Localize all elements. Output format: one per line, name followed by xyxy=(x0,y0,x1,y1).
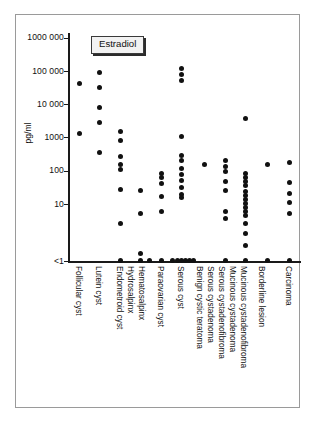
data-point xyxy=(77,81,82,86)
data-point xyxy=(179,134,184,139)
y-tick-label: 10 xyxy=(54,199,64,209)
chart-title-box: Estradiol xyxy=(91,36,144,54)
y-tick-mark xyxy=(64,71,68,72)
y-tick-mark xyxy=(64,137,68,138)
data-point xyxy=(223,164,228,169)
data-point xyxy=(179,166,184,171)
data-point xyxy=(118,167,123,172)
data-point xyxy=(138,211,143,216)
data-point xyxy=(77,131,82,136)
y-tick-label: 1000 xyxy=(44,132,64,142)
data-point xyxy=(97,150,102,155)
data-point xyxy=(223,179,228,184)
data-point xyxy=(243,231,248,236)
data-point xyxy=(97,105,102,110)
data-point xyxy=(243,183,248,188)
data-point xyxy=(243,221,248,226)
data-point xyxy=(97,85,102,90)
data-point xyxy=(202,162,207,167)
data-point xyxy=(287,258,292,263)
data-point xyxy=(191,258,196,263)
data-point xyxy=(138,188,143,193)
data-point xyxy=(179,185,184,190)
data-point xyxy=(265,258,270,263)
x-tick-label: Follicular cyst xyxy=(74,266,83,316)
data-point xyxy=(243,243,248,248)
x-tick-label: Borderline lesion xyxy=(257,266,266,327)
y-tick-mark xyxy=(64,171,68,172)
y-tick-mark xyxy=(64,204,68,205)
data-point xyxy=(223,258,228,263)
data-point xyxy=(179,172,184,177)
data-point xyxy=(97,120,102,125)
data-point xyxy=(170,258,175,263)
x-tick-label: Lutein cyst xyxy=(94,266,103,305)
data-point xyxy=(118,187,123,192)
y-axis-label: pg/ml xyxy=(23,103,33,163)
data-point xyxy=(287,160,292,165)
data-point xyxy=(147,258,152,263)
data-point xyxy=(223,188,228,193)
data-point xyxy=(179,178,184,183)
y-tick-label: <1 xyxy=(54,256,64,266)
data-point xyxy=(179,72,184,77)
data-point xyxy=(118,154,123,159)
x-tick-label: Mucinous cystadenofibroma xyxy=(239,266,248,368)
data-point xyxy=(138,251,143,256)
x-tick-label: Endometroid cyst xyxy=(115,266,124,329)
data-point xyxy=(223,209,228,214)
data-point xyxy=(159,181,164,186)
data-point xyxy=(243,213,248,218)
y-tick-mark xyxy=(64,38,68,39)
y-tick-label: 100 xyxy=(49,165,64,175)
data-point xyxy=(118,162,123,167)
data-point xyxy=(265,162,270,167)
figure-estradiol-scatter-plot: 1000 000100 00010 000100010010<1 Follicu… xyxy=(0,0,315,424)
data-point xyxy=(223,169,228,174)
data-point xyxy=(223,216,228,221)
data-point xyxy=(138,258,143,263)
y-tick-label: 1000 000 xyxy=(27,32,64,42)
plot-area: 1000 000100 00010 000100010010<1 Follicu… xyxy=(0,0,315,424)
y-tick-mark xyxy=(64,104,68,105)
y-tick-mark xyxy=(64,261,68,262)
data-point xyxy=(97,70,102,75)
data-point xyxy=(118,129,123,134)
data-point xyxy=(287,200,292,205)
data-point xyxy=(118,138,123,143)
x-tick-label: Serous cystadenoma xyxy=(206,266,215,343)
y-tick-label: 10 000 xyxy=(37,99,64,109)
x-tick-label: Serous cystadenofibroma xyxy=(217,266,226,359)
data-point xyxy=(118,221,123,226)
data-point xyxy=(179,66,184,71)
data-point xyxy=(159,175,164,180)
data-point xyxy=(179,195,184,200)
data-point xyxy=(287,211,292,216)
x-tick-label: Mucinous cystadenoma xyxy=(228,266,237,352)
x-tick-label: Serous cyst xyxy=(176,266,185,309)
data-point xyxy=(243,116,248,121)
data-point xyxy=(159,258,164,263)
y-axis-line xyxy=(68,33,70,262)
data-point xyxy=(179,158,184,163)
y-tick-label: 100 000 xyxy=(32,66,64,76)
data-point xyxy=(179,78,184,83)
data-point xyxy=(243,258,248,263)
data-point xyxy=(287,191,292,196)
x-tick-label: Hematosalpinx xyxy=(137,266,146,320)
x-tick-label: Hydrosalpinx xyxy=(126,266,135,313)
data-point xyxy=(159,194,164,199)
x-tick-label: Carcinoma xyxy=(284,266,293,306)
data-point xyxy=(179,153,184,158)
x-tick-label: Benign cystic teratoma xyxy=(195,266,204,349)
data-point xyxy=(118,258,123,263)
data-point xyxy=(287,180,292,185)
data-point xyxy=(159,209,164,214)
x-tick-label: Paraovarian cyst xyxy=(156,266,165,327)
data-point xyxy=(223,158,228,163)
